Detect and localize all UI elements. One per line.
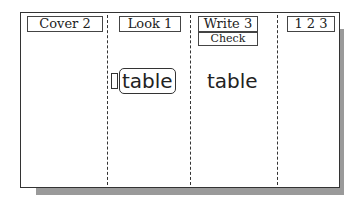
cover-flap-icon (111, 73, 118, 89)
write-word: table (207, 69, 258, 93)
write-header: Write 3 (198, 16, 258, 32)
word-shape-box: table (119, 68, 176, 94)
fold-line (107, 15, 108, 185)
look-word: table (119, 69, 176, 93)
cover-header: Cover 2 (27, 16, 103, 32)
look-header: Look 1 (119, 16, 181, 32)
check-subheader: Check (198, 32, 258, 46)
fold-line (190, 15, 191, 185)
count-header: 1 2 3 (287, 16, 335, 32)
worksheet: Cover 2 Look 1 Write 3 Check 1 2 3 table… (20, 12, 340, 188)
fold-line (277, 15, 278, 185)
